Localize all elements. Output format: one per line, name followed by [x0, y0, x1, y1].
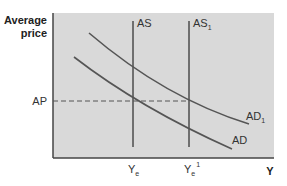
- as-label: AS: [137, 17, 152, 29]
- x-axis-label: Y: [266, 165, 274, 177]
- y-axis-label-line1: Average: [4, 14, 47, 26]
- ad-label: AD: [232, 134, 247, 146]
- y-axis-label-line2: price: [21, 27, 47, 39]
- y-tick-ap: AP: [32, 95, 47, 107]
- x-tick-ye1: Ye1: [184, 161, 200, 177]
- x-tick-ye: Ye: [128, 163, 139, 177]
- ad-as-diagram: AS AS1 AD1 AD Average price Y AP Ye Ye1: [0, 0, 287, 186]
